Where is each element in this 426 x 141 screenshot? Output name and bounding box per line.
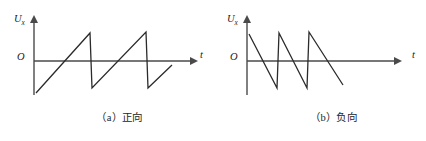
origin-label-a: O — [17, 51, 25, 62]
panel-a-forward: Ux O t （a）正向 — [0, 0, 213, 141]
figure-container: Ux O t （a）正向 Ux O t — [0, 0, 426, 141]
y-axis-label-a-sub: x — [22, 18, 25, 27]
sawtooth-waveform-a — [36, 32, 172, 93]
caption-a: （a）正向 — [0, 109, 213, 124]
y-axis-label-a-main: U — [14, 13, 22, 24]
panel-b-reverse: Ux O t （b）负向 — [213, 0, 426, 141]
y-axis-label-b: Ux — [227, 13, 238, 27]
origin-label-b: O — [230, 51, 238, 62]
sawtooth-waveform-b — [249, 32, 343, 88]
caption-b: （b）负向 — [213, 109, 426, 124]
y-axis-label-b-main: U — [227, 13, 235, 24]
x-axis-label-a: t — [200, 49, 203, 60]
x-axis-label-b: t — [412, 49, 415, 60]
y-axis-label-b-sub: x — [235, 18, 238, 27]
y-axis-label-a: Ux — [14, 13, 25, 27]
